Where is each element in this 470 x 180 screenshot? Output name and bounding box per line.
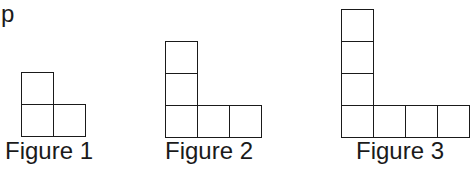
square-cell	[165, 105, 198, 138]
square-cell	[21, 104, 54, 137]
square-cell	[341, 105, 374, 138]
square-cell	[21, 72, 54, 105]
figure-3-label: Figure 3	[356, 137, 444, 165]
square-cell	[53, 104, 86, 137]
corner-letter: p	[1, 2, 14, 26]
figure-2-label: Figure 2	[165, 137, 253, 165]
square-cell	[405, 105, 438, 138]
square-cell	[165, 73, 198, 106]
figure-1-label: Figure 1	[5, 137, 93, 165]
square-cell	[373, 105, 406, 138]
square-cell	[229, 105, 262, 138]
square-cell	[341, 41, 374, 74]
square-cell	[165, 41, 198, 74]
square-cell	[341, 9, 374, 42]
square-cell	[437, 105, 470, 138]
square-cell	[197, 105, 230, 138]
square-cell	[341, 73, 374, 106]
